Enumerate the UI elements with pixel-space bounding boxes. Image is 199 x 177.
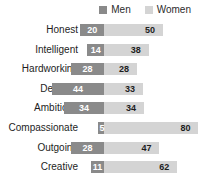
bar-value-men: 44 — [52, 83, 104, 95]
chart-row: Creative1162 — [0, 157, 199, 177]
chart-row: Ambitious3434 — [0, 98, 199, 118]
chart-row: Honest2050 — [0, 20, 199, 40]
bar-value-men: 28 — [71, 63, 104, 75]
bar-value-men: 34 — [64, 102, 104, 114]
category-label-intelligent: Intelligent — [35, 40, 78, 60]
bar-group: 580 — [78, 118, 199, 138]
bar-value-women: 38 — [127, 44, 145, 56]
bar-value-men: 14 — [87, 44, 104, 56]
legend-swatch-women — [145, 6, 153, 14]
bar-group: 2050 — [78, 20, 199, 40]
chart-row: Decisive4433 — [0, 79, 199, 99]
bar-value-men: 5 — [98, 122, 106, 134]
legend-label-men: Men — [111, 5, 130, 15]
legend-swatch-men — [99, 6, 107, 14]
chart-plot-area: Honest2050Intelligent1438Hardworking2828… — [0, 20, 199, 177]
legend-item-men: Men — [99, 5, 130, 15]
bar-value-women: 33 — [121, 83, 139, 95]
bar-group: 4433 — [78, 79, 199, 99]
category-label-compassionate: Compassionate — [9, 118, 78, 138]
legend-label-women: Women — [157, 5, 191, 15]
bar-value-men: 20 — [80, 24, 104, 36]
chart-row: Hardworking2828 — [0, 59, 199, 79]
category-label-creative: Creative — [41, 157, 78, 177]
bar-group: 2828 — [78, 59, 199, 79]
bar-group: 3434 — [78, 98, 199, 118]
bar-value-men: 28 — [71, 142, 104, 154]
legend-item-women: Women — [145, 5, 191, 15]
bar-value-women: 28 — [115, 63, 133, 75]
bar-value-women: 34 — [122, 102, 140, 114]
chart-row: Outgoing2847 — [0, 138, 199, 158]
category-label-honest: Honest — [46, 20, 78, 40]
bar-group: 1438 — [78, 40, 199, 60]
bar-value-men: 11 — [91, 161, 104, 173]
bar-group: 2847 — [78, 138, 199, 158]
diverging-bar-chart: Men Women Honest2050Intelligent1438Hardw… — [0, 0, 199, 177]
bar-group: 1162 — [78, 157, 199, 177]
bar-value-women: 62 — [155, 161, 173, 173]
chart-row: Compassionate580 — [0, 118, 199, 138]
bar-value-women: 80 — [176, 122, 194, 134]
category-label-hardworking: Hardworking — [22, 59, 78, 79]
chart-row: Intelligent1438 — [0, 40, 199, 60]
bar-value-women: 50 — [141, 24, 159, 36]
chart-legend: Men Women — [0, 3, 199, 17]
bar-value-women: 47 — [137, 142, 155, 154]
